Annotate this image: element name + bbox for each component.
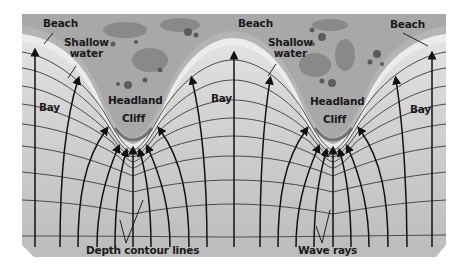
wave-refraction-diagram: Beach Shallow water Bay Headland Cliff B… [0,0,467,276]
label-wave-rays: Wave rays [298,245,357,256]
label-beach-mid: Beach [238,18,273,29]
label-cliff-left: Cliff [122,113,145,124]
label-bay-mid: Bay [211,93,232,104]
label-bay-right: Bay [410,104,431,115]
label-beach-left: Beach [43,18,78,29]
label-beach-right: Beach [390,19,425,30]
label-headland-left: Headland [108,95,163,106]
label-shallow-line2: water [64,48,109,59]
label-cliff-right: Cliff [323,114,346,125]
label-depth-contour-lines: Depth contour lines [86,245,199,256]
label-headland-right: Headland [310,96,365,107]
label-shallow-line2: water [268,48,313,59]
label-shallow-water-left: Shallow water [64,37,109,59]
label-shallow-water-right: Shallow water [268,37,313,59]
label-bay-left: Bay [39,102,60,113]
